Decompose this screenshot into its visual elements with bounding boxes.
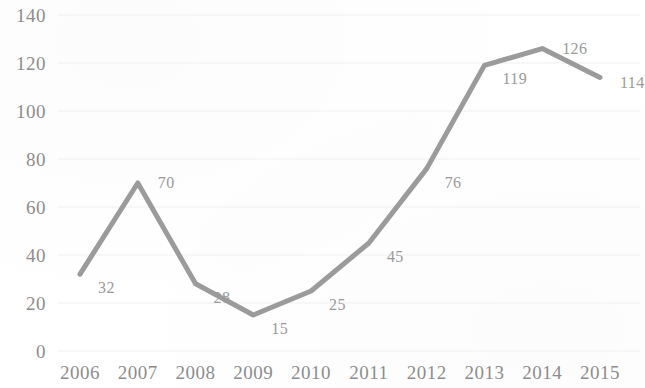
data-point-label: 32 [98, 280, 115, 296]
data-point-label: 28 [214, 290, 231, 306]
plot-area [0, 0, 645, 388]
data-point-label: 45 [387, 249, 404, 265]
data-point-label: 25 [329, 297, 346, 313]
gridlines [58, 15, 640, 351]
data-point-label: 15 [271, 321, 288, 337]
data-point-label: 70 [158, 175, 175, 191]
data-point-label: 114 [620, 75, 645, 91]
data-point-label: 76 [445, 175, 462, 191]
line-chart: 020406080100120140 200620072008200920102… [0, 0, 645, 388]
data-point-label: 126 [562, 41, 587, 57]
data-point-label: 119 [502, 71, 527, 87]
